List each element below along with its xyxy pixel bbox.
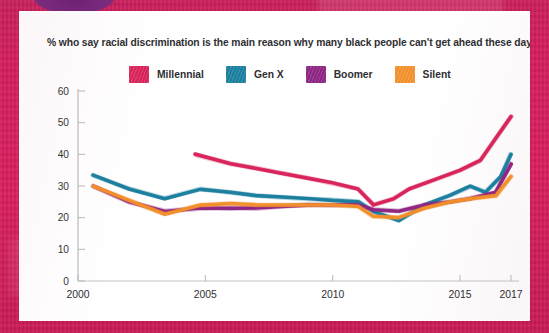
- x-axis-tick-label: 2010: [321, 289, 344, 300]
- y-axis-tick-label: 50: [58, 117, 70, 128]
- x-axis-tick-label: 2017: [499, 289, 522, 300]
- chart-card: % who say racial discrimination is the m…: [19, 11, 530, 321]
- chart-plot-area: 605040302010020002005201020152017: [19, 11, 530, 321]
- x-axis-tick-label: 2000: [66, 289, 89, 300]
- screenshot-root: % who say racial discrimination is the m…: [0, 0, 549, 333]
- x-axis-tick-label: 2005: [194, 289, 217, 300]
- y-axis-tick-label: 0: [63, 276, 69, 287]
- y-axis-tick-label: 20: [58, 212, 70, 223]
- y-axis-tick-label: 10: [58, 244, 70, 255]
- y-axis-tick-label: 40: [58, 149, 70, 160]
- y-axis-tick-label: 60: [58, 86, 70, 97]
- y-axis-tick-label: 30: [58, 181, 70, 192]
- x-axis-tick-label: 2015: [448, 289, 471, 300]
